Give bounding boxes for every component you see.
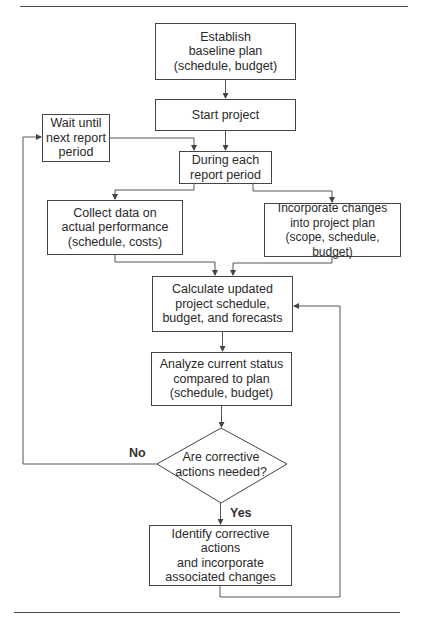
node-collect-data: Collect data on actual performance (sche… <box>47 200 183 255</box>
node-calculate-updated: Calculate updated project schedule, budg… <box>152 276 293 332</box>
node-wait-until-next-period: Wait until next report period <box>42 114 110 162</box>
node-during-report-period: During each report period <box>179 151 272 184</box>
node-establish-baseline: Establish baseline plan (schedule, budge… <box>155 23 296 80</box>
edge-label-yes: Yes <box>230 506 252 520</box>
node-identify-corrective: Identify corrective actions and incorpor… <box>149 525 292 586</box>
decision-question: Are corrective actions needed? <box>171 450 271 479</box>
edge-label-no: No <box>129 446 146 460</box>
node-start-project: Start project <box>155 99 296 131</box>
node-incorporate-changes: Incorporate changes into project plan (s… <box>264 203 401 257</box>
node-analyze-status: Analyze current status compared to plan … <box>151 352 292 406</box>
